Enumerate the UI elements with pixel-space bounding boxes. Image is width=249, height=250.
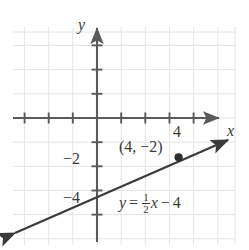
- y-axis: [92, 28, 103, 242]
- fraction-numerator: 1: [142, 192, 150, 203]
- equation-label: y=12x−4: [119, 192, 181, 215]
- y-tick-label-neg2: −2: [63, 151, 80, 167]
- equation-fraction: 12: [142, 192, 150, 215]
- equation-variable: x: [151, 194, 158, 211]
- plotted-point-marker: [175, 153, 183, 161]
- graph-figure: y x −2 −4 4 (4, −2) y=12x−4: [0, 0, 249, 250]
- y-axis-label: y: [78, 17, 85, 33]
- x-axis-label: x: [227, 123, 234, 139]
- equation-minus: −: [161, 194, 170, 211]
- x-tick-label-4: 4: [173, 124, 181, 140]
- y-tick-label-neg4: −4: [63, 190, 80, 206]
- equation-constant: 4: [173, 194, 181, 211]
- x-axis: [13, 113, 219, 124]
- point-coordinate-label: (4, −2): [119, 139, 163, 155]
- equation-equals: =: [129, 194, 138, 211]
- equation-lhs: y: [119, 194, 126, 211]
- fraction-denominator: 2: [142, 203, 150, 215]
